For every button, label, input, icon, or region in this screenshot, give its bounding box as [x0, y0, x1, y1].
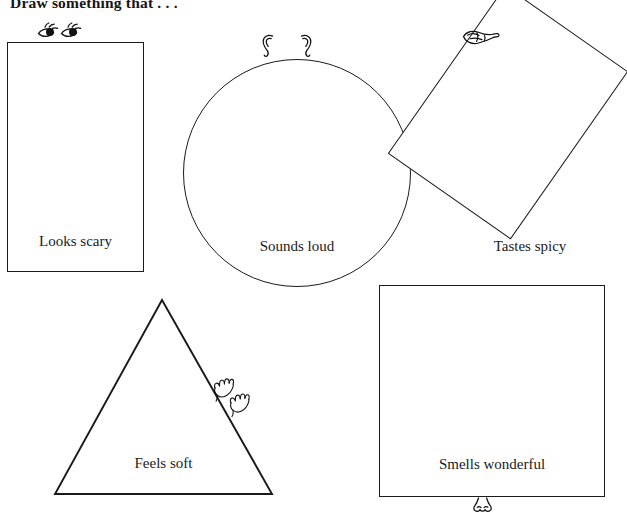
ears-icon — [259, 33, 319, 59]
shape-label-sounds-loud: Sounds loud — [183, 238, 411, 255]
page-title: Draw something that . . . — [10, 0, 178, 12]
nose-icon — [468, 497, 498, 517]
tongue-icon — [461, 27, 501, 49]
worksheet-page: Draw something that . . . Looks scary — [0, 0, 627, 518]
shape-label-feels-soft: Feels soft — [76, 455, 251, 472]
shape-label-looks-scary: Looks scary — [7, 233, 144, 250]
shape-label-smells-wonderful: Smells wonderful — [379, 456, 605, 473]
hands-icon — [211, 372, 257, 422]
eyes-icon — [36, 21, 84, 41]
rectangle-shape-tastes-spicy[interactable] — [388, 0, 627, 239]
rotated-rectangle-wrapper — [388, 0, 627, 239]
shape-label-tastes-spicy: Tastes spicy — [450, 238, 610, 255]
